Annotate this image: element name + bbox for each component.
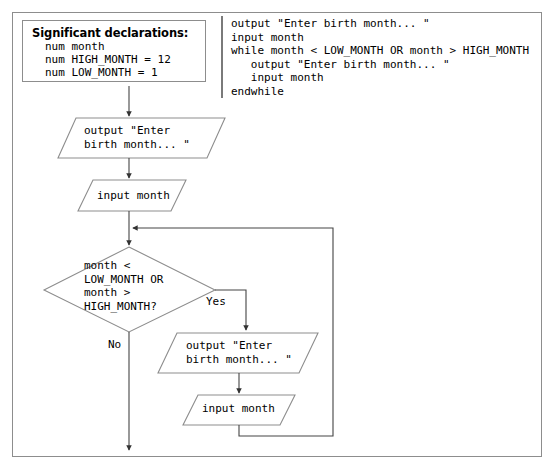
shape-label-output-2: output "Enter birth month... " xyxy=(186,339,292,366)
declarations-line-1: num HIGH_MONTH = 12 xyxy=(32,53,205,66)
declarations-line-2: num LOW_MONTH = 1 xyxy=(32,66,205,79)
flowchart-figure: Significant declarations: num month num … xyxy=(0,0,554,473)
pseudocode-block: output "Enter birth month... " input mon… xyxy=(231,17,541,99)
branch-label-yes: Yes xyxy=(206,295,226,308)
significant-declarations-box: Significant declarations: num month num … xyxy=(22,20,206,82)
branch-label-no: No xyxy=(108,338,121,351)
shape-label-input-1: input month xyxy=(97,189,170,203)
pseudocode-divider xyxy=(221,16,223,98)
shape-label-decision: month < LOW_MONTH OR month > HIGH_MONTH? xyxy=(84,259,163,313)
declarations-title: Significant declarations: xyxy=(32,26,205,40)
declarations-line-0: num month xyxy=(32,40,205,53)
shape-label-input-2: input month xyxy=(202,402,275,416)
shape-label-output-1: output "Enter birth month... " xyxy=(84,124,190,151)
